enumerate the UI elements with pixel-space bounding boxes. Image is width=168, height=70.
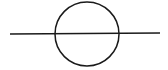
diagram-canvas	[0, 0, 168, 70]
horizontal-line	[10, 33, 160, 34]
